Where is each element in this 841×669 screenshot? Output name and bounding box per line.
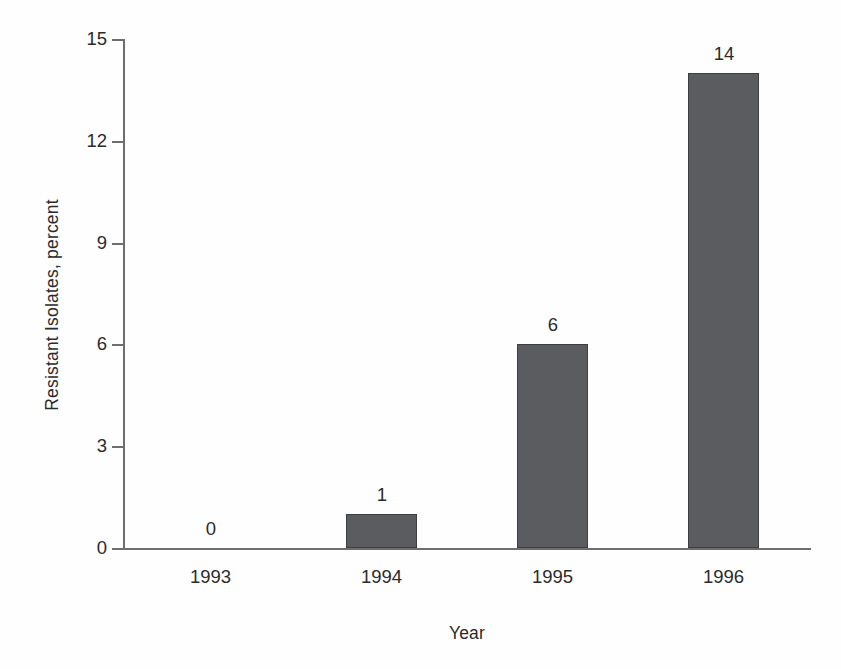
y-tick-label: 15 xyxy=(61,28,107,50)
bar-value-label-1994: 1 xyxy=(332,484,432,506)
x-tick-label-1995: 1995 xyxy=(467,566,638,588)
x-axis-title: Year xyxy=(123,623,811,644)
y-tick-mark xyxy=(112,344,123,346)
bar-1996[interactable] xyxy=(688,73,759,548)
y-tick-mark xyxy=(112,548,123,550)
bar-1994[interactable] xyxy=(346,514,417,548)
y-tick-mark xyxy=(112,39,123,41)
x-tick-label-1996: 1996 xyxy=(638,566,809,588)
y-tick-label: 9 xyxy=(61,232,107,254)
bar-value-label-1996: 14 xyxy=(674,43,774,65)
bar-value-label-1993: 0 xyxy=(161,518,261,540)
bar-column-1994: 1 xyxy=(296,39,467,548)
y-tick-mark xyxy=(112,446,123,448)
x-tick-label-1994: 1994 xyxy=(296,566,467,588)
y-tick-mark xyxy=(112,243,123,245)
x-tick-label-1993: 1993 xyxy=(125,566,296,588)
y-tick-label: 12 xyxy=(61,130,107,152)
y-tick-label: 3 xyxy=(61,435,107,457)
bar-chart-figure: Resistant Isolates, percent 0 3 6 9 12 1… xyxy=(0,0,841,669)
bar-column-1993: 0 xyxy=(125,39,296,548)
x-axis-line xyxy=(123,548,811,550)
y-axis-title: Resistant Isolates, percent xyxy=(42,65,63,545)
y-tick-label: 0 xyxy=(61,537,107,559)
y-tick-label: 6 xyxy=(61,333,107,355)
plot-area: 0 1 6 14 xyxy=(125,39,811,548)
bar-column-1996: 14 xyxy=(638,39,809,548)
bar-value-label-1995: 6 xyxy=(503,314,603,336)
bar-1995[interactable] xyxy=(517,344,588,548)
bar-column-1995: 6 xyxy=(467,39,638,548)
y-tick-mark xyxy=(112,141,123,143)
